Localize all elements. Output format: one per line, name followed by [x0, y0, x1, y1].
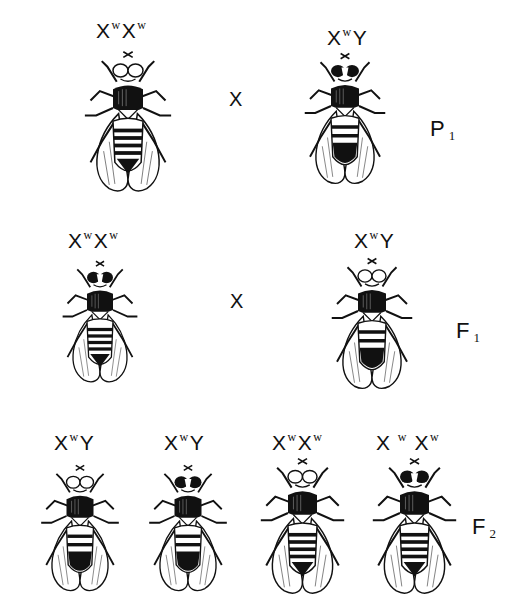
genotype-label-p1-female: XwXw	[96, 18, 147, 43]
fly-p1-female-white-eye	[78, 48, 178, 198]
genotype-label-f1-female: XwXw	[68, 228, 119, 253]
fly-f2-male-dark-eye	[138, 462, 238, 597]
generation-label-p1: P1	[430, 116, 455, 144]
fly-f1-female-dark-eye	[50, 258, 150, 388]
genotype-label-f2-female-2: X w Xw	[376, 430, 440, 455]
fly-f2-female-white-eye	[250, 455, 355, 600]
fly-p1-male-dark-eye	[295, 50, 395, 190]
genotype-label-p1-male: XwY	[327, 25, 367, 50]
genotype-label-f1-male: XwY	[354, 228, 394, 253]
genotype-label-f2-female-1: XwXw	[272, 430, 323, 455]
genotype-label-f2-male-1: XwY	[54, 430, 94, 455]
cross-symbol-p1: X	[229, 88, 242, 111]
fly-f2-female-dark-eye	[362, 455, 467, 600]
fly-f2-male-white-eye	[30, 462, 130, 597]
generation-label-f2: F2	[472, 514, 496, 542]
genotype-label-f2-male-2: XwY	[164, 430, 204, 455]
fly-f1-male-white-eye	[322, 255, 422, 395]
cross-symbol-f1: X	[230, 290, 243, 313]
generation-label-f1: F1	[456, 318, 480, 346]
